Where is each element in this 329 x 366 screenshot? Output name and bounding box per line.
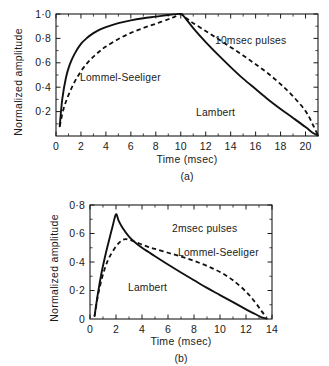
tick-label: 0 bbox=[87, 323, 93, 335]
tick-label: 0·8 bbox=[35, 32, 51, 44]
chart-b-label-lambert: Lambert bbox=[128, 282, 167, 293]
chart-b-label-lommel-seeliger: Lommel-Seeliger bbox=[178, 247, 259, 258]
tick-label: 12 bbox=[200, 140, 212, 152]
tick-label: 12 bbox=[240, 323, 252, 335]
tick-label: 0·6 bbox=[35, 56, 51, 68]
chart-a-ylabel: Normalized amplitude bbox=[12, 28, 24, 136]
chart-b-caption: (b) bbox=[175, 352, 188, 364]
tick-label: 14 bbox=[266, 323, 278, 335]
tick-label: 18 bbox=[275, 140, 287, 152]
chart-b-annotation: 2msec pulses bbox=[172, 223, 237, 234]
tick-label: 4 bbox=[139, 323, 145, 335]
chart-a-label-lommel-seeliger: Lommel-Seeliger bbox=[80, 72, 161, 83]
tick-label: 20 bbox=[299, 140, 311, 152]
chart-a-label-lambert: Lambert bbox=[196, 107, 235, 118]
chart-panel-a: Normalized amplitude 024681012141618200·… bbox=[0, 0, 329, 186]
tick-label: 4 bbox=[103, 140, 109, 152]
tick-label: 0 bbox=[53, 140, 59, 152]
chart-b-xlabel: Time (msec) bbox=[150, 335, 211, 347]
tick-label: 16 bbox=[250, 140, 262, 152]
chart-b-tick-labels: 024681012140·20·40·60·80 bbox=[69, 199, 278, 335]
chart-b-svg: Normalized amplitude 024681012140·20·40·… bbox=[0, 186, 329, 366]
tick-label: 8 bbox=[191, 323, 197, 335]
tick-label: 10 bbox=[214, 323, 226, 335]
chart-b-ylabel: Normalized amplitude bbox=[48, 214, 60, 322]
tick-label: 0·2 bbox=[35, 105, 51, 117]
tick-label: 0·8 bbox=[69, 199, 85, 211]
tick-label: 6 bbox=[128, 140, 134, 152]
tick-label: 0·2 bbox=[69, 284, 85, 296]
figure-root: Normalized amplitude 024681012141618200·… bbox=[0, 0, 329, 366]
tick-label: 10 bbox=[175, 140, 187, 152]
tick-label: 2 bbox=[113, 323, 119, 335]
tick-label: 2 bbox=[78, 140, 84, 152]
chart-panel-b: Normalized amplitude 024681012140·20·40·… bbox=[0, 186, 329, 366]
chart-a-svg: Normalized amplitude 024681012141618200·… bbox=[0, 0, 329, 186]
tick-label: 0·6 bbox=[69, 227, 85, 239]
tick-label: 0·4 bbox=[69, 256, 85, 268]
tick-label: 0 bbox=[79, 313, 85, 325]
tick-label: 6 bbox=[165, 323, 171, 335]
chart-a-caption: (a) bbox=[181, 170, 194, 182]
chart-a-xlabel: Time (msec) bbox=[156, 153, 217, 165]
chart-a-annotation: 10msec pulses bbox=[215, 35, 286, 46]
tick-label: 8 bbox=[153, 140, 159, 152]
tick-label: 1·0 bbox=[35, 8, 51, 20]
tick-label: 0·4 bbox=[35, 81, 51, 93]
tick-label: 14 bbox=[225, 140, 237, 152]
